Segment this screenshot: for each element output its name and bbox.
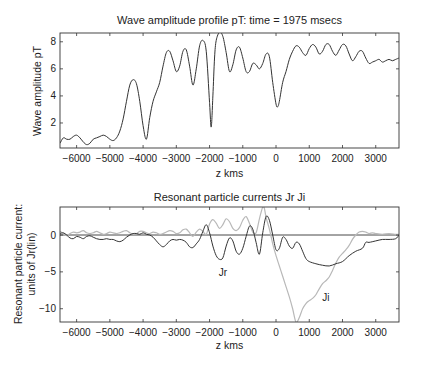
figure: Wave amplitude profile pT: time = 1975 m… (0, 0, 421, 367)
particle-currents-y-label-line1: Resonant particle current: (12, 204, 24, 324)
x-tick-label: −3000 (162, 327, 191, 338)
y-tick-label: 0 (50, 230, 56, 241)
particle-currents-title: Resonant particle currents Jr Ji (154, 191, 306, 203)
x-tick-label: −2000 (196, 153, 225, 164)
x-tick-label: −5000 (96, 327, 125, 338)
particle-currents-y-label-line2: units of Jr(lin) (25, 232, 37, 295)
wave-amplitude-y-label: Wave amplitude pT (31, 45, 43, 136)
y-tick-label: 6 (50, 63, 56, 74)
particle-currents-y-label: Resonant particle current: units of Jr(l… (12, 204, 37, 324)
y-tick-label: 2 (50, 117, 56, 128)
x-tick-label: −5000 (96, 153, 125, 164)
particle-currents-axes-frame (60, 207, 399, 322)
x-tick-label: −6000 (63, 327, 92, 338)
x-tick-label: 0 (273, 327, 279, 338)
x-tick-label: −1000 (229, 327, 258, 338)
annotation-ji: Ji (322, 292, 329, 303)
wave-amplitude-panel: Wave amplitude profile pT: time = 1975 m… (31, 14, 399, 179)
x-tick-label: −4000 (129, 153, 158, 164)
x-tick-label: −4000 (129, 327, 158, 338)
x-tick-label: −6000 (63, 153, 92, 164)
series-line-jr (60, 216, 399, 266)
x-tick-label: 1000 (298, 327, 321, 338)
x-tick-label: 2000 (331, 327, 354, 338)
x-tick-label: 2000 (331, 153, 354, 164)
wave-amplitude-plot-area (60, 32, 399, 145)
x-tick-label: 1000 (298, 153, 321, 164)
wave-amplitude-x-ticks: −6000−5000−4000−3000−2000−10000100020003… (63, 33, 388, 164)
x-tick-label: 3000 (365, 153, 388, 164)
x-tick-label: 3000 (365, 327, 388, 338)
x-tick-label: −2000 (196, 327, 225, 338)
particle-currents-plot-area (60, 206, 399, 322)
wave-amplitude-x-label: z kms (216, 167, 243, 179)
y-tick-label: −5 (45, 266, 57, 277)
x-tick-label: −3000 (162, 153, 191, 164)
x-tick-label: −1000 (229, 153, 258, 164)
annotation-jr: Jr (219, 267, 228, 278)
series-line-wave-amplitude (60, 32, 399, 145)
wave-amplitude-y-ticks: 2468 (50, 36, 399, 128)
x-tick-label: 0 (273, 153, 279, 164)
wave-amplitude-title: Wave amplitude profile pT: time = 1975 m… (117, 14, 342, 26)
particle-currents-x-label: z kms (216, 339, 243, 351)
series-line-ji (60, 206, 399, 322)
particle-currents-panel: Resonant particle currents Jr Ji −6000−5… (12, 191, 399, 351)
y-tick-label: −10 (39, 303, 56, 314)
y-tick-label: 8 (50, 36, 56, 47)
y-tick-label: 4 (50, 90, 56, 101)
